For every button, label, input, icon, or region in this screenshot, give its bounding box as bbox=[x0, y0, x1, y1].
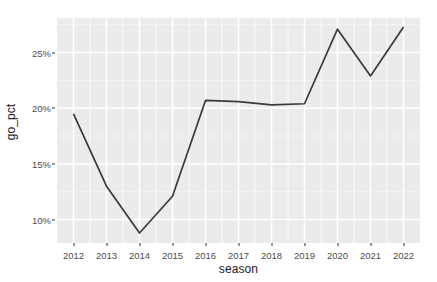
x-axis-tick-label: 2014 bbox=[129, 250, 150, 261]
x-axis-tick-mark bbox=[370, 243, 371, 246]
x-axis-tick-label: 2012 bbox=[63, 250, 84, 261]
x-axis-tick-mark bbox=[139, 243, 140, 246]
x-axis-tick-mark bbox=[403, 243, 404, 246]
x-axis-tick-label: 2022 bbox=[393, 250, 414, 261]
x-axis-title-label: season bbox=[219, 262, 258, 276]
x-axis-tick-mark bbox=[73, 243, 74, 246]
x-axis-tick-label: 2013 bbox=[96, 250, 117, 261]
x-axis-tick-mark bbox=[205, 243, 206, 246]
x-axis-tick-label: 2019 bbox=[294, 250, 315, 261]
x-axis-tick-label: 2015 bbox=[162, 250, 183, 261]
y-axis-tick-mark bbox=[52, 219, 55, 220]
x-axis-tick-mark bbox=[304, 243, 305, 246]
x-axis-tick-mark bbox=[337, 243, 338, 246]
x-axis-tick-mark bbox=[238, 243, 239, 246]
x-axis-tick-labels: 2012201320142015201620172018201920202021… bbox=[0, 0, 437, 282]
x-axis-title: season bbox=[57, 262, 420, 276]
x-axis-tick-label: 2021 bbox=[360, 250, 381, 261]
x-axis-tick-label: 2017 bbox=[228, 250, 249, 261]
x-axis-tick-mark bbox=[172, 243, 173, 246]
y-axis-tick-mark bbox=[52, 163, 55, 164]
y-axis-tick-mark bbox=[52, 108, 55, 109]
x-axis-tick-label: 2020 bbox=[327, 250, 348, 261]
x-axis-tick-mark bbox=[106, 243, 107, 246]
x-axis-tick-label: 2018 bbox=[261, 250, 282, 261]
chart-root: go_pct 10%15%20%25% 20122013201420152016… bbox=[0, 0, 437, 282]
y-axis-tick-mark bbox=[52, 52, 55, 53]
x-axis-tick-label: 2016 bbox=[195, 250, 216, 261]
x-axis-tick-mark bbox=[271, 243, 272, 246]
